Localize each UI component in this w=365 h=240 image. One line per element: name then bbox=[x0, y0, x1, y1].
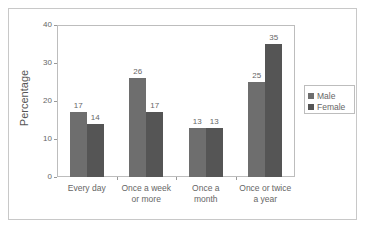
value-label: 35 bbox=[264, 33, 284, 42]
x-tick-mark bbox=[176, 177, 177, 180]
y-tick-label: 10 bbox=[32, 134, 52, 143]
y-tick-label: 20 bbox=[32, 96, 52, 105]
value-label: 17 bbox=[68, 101, 88, 110]
y-tick-mark bbox=[54, 177, 57, 178]
y-tick-mark bbox=[54, 25, 57, 26]
x-tick-mark bbox=[236, 177, 237, 180]
y-tick-label: 30 bbox=[32, 58, 52, 67]
legend: Male Female bbox=[304, 85, 355, 114]
legend-item-male: Male bbox=[308, 91, 335, 101]
y-tick-label: 40 bbox=[32, 20, 52, 29]
bar-male bbox=[129, 78, 146, 177]
value-label: 26 bbox=[128, 67, 148, 76]
value-label: 25 bbox=[247, 71, 267, 80]
value-label: 17 bbox=[145, 101, 165, 110]
bar-female bbox=[146, 112, 163, 177]
legend-label-female: Female bbox=[317, 102, 345, 112]
y-tick-label: 0 bbox=[32, 172, 52, 181]
y-tick-mark bbox=[54, 101, 57, 102]
y-tick-mark bbox=[54, 63, 57, 64]
bar-male bbox=[70, 112, 87, 177]
bar-female bbox=[265, 44, 282, 177]
bar-female bbox=[87, 124, 104, 177]
x-tick-mark bbox=[117, 177, 118, 180]
bar-male bbox=[189, 128, 206, 177]
value-label: 13 bbox=[204, 117, 224, 126]
y-tick-mark bbox=[54, 139, 57, 140]
value-label: 14 bbox=[85, 113, 105, 122]
bar-male bbox=[248, 82, 265, 177]
y-axis-label: Percentage bbox=[18, 58, 30, 138]
legend-item-female: Female bbox=[308, 102, 345, 112]
bar-female bbox=[206, 128, 223, 177]
x-category-label: Once or twicea year bbox=[230, 183, 300, 205]
male-swatch-icon bbox=[308, 93, 314, 99]
legend-label-male: Male bbox=[317, 91, 335, 101]
female-swatch-icon bbox=[308, 104, 314, 110]
